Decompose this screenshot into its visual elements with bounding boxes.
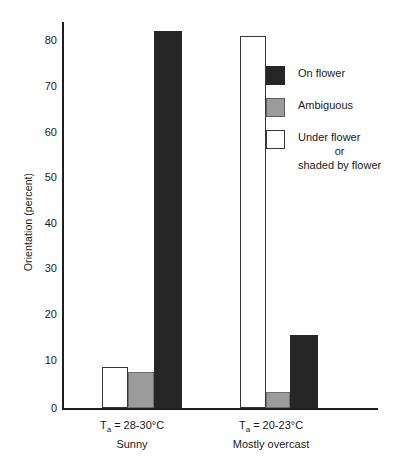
legend-item-on-flower: On flower (266, 66, 401, 85)
legend-swatch-ambiguous (266, 98, 285, 117)
y-tick-80: 80 (45, 35, 57, 46)
y-tick-40: 40 (45, 217, 57, 228)
x-group-label-1: Ta = 28-30°C Sunny (62, 418, 202, 452)
legend-swatch-under-flower (266, 130, 285, 149)
legend-under-flower-line-1: Under flower (298, 130, 381, 144)
bar-g2-ambiguous (266, 392, 290, 408)
legend-under-flower-line-3: shaded by flower (298, 158, 381, 172)
legend-under-flower-line-2: or (298, 144, 381, 158)
legend-label-on-flower: On flower (298, 66, 345, 80)
x-group-2-t: T (239, 419, 246, 431)
y-tick-30: 30 (45, 263, 57, 274)
legend-label-ambiguous: Ambiguous (298, 98, 353, 112)
y-axis-line (62, 22, 64, 410)
bar-g2-under-flower (240, 36, 266, 408)
bar-chart-figure: Orientation (percent) 80 70 60 50 40 30 … (0, 0, 401, 472)
y-tick-10: 10 (45, 354, 57, 365)
x-group-1-rest: = 28-30°C (111, 419, 164, 431)
bar-g1-ambiguous (128, 372, 154, 408)
y-tick-0: 0 (51, 402, 57, 413)
bar-g2-on-flower (290, 335, 318, 408)
y-tick-20: 20 (45, 309, 57, 320)
y-axis-title: Orientation (percent) (22, 142, 34, 302)
bar-g1-on-flower (154, 31, 182, 408)
y-tick-70: 70 (45, 81, 57, 92)
x-group-2-rest: = 20-23°C (250, 419, 303, 431)
legend-item-ambiguous: Ambiguous (266, 98, 401, 117)
legend-label-under-flower: Under flower or shaded by flower (298, 130, 381, 172)
x-group-label-2: Ta = 20-23°C Mostly overcast (196, 418, 346, 452)
y-tick-60: 60 (45, 126, 57, 137)
y-tick-50: 50 (45, 172, 57, 183)
x-axis-line (62, 408, 378, 410)
legend-item-under-flower: Under flower or shaded by flower (266, 130, 401, 172)
legend-on-flower-line-1: On flower (298, 66, 345, 80)
legend-ambiguous-line-1: Ambiguous (298, 98, 353, 112)
chart-legend: On flower Ambiguous Under flower or shad… (266, 66, 401, 185)
x-group-2-line2: Mostly overcast (196, 437, 346, 452)
x-group-1-line2: Sunny (62, 437, 202, 452)
bar-g1-under-flower (102, 367, 128, 408)
legend-swatch-on-flower (266, 66, 285, 85)
x-group-1-t: T (100, 419, 107, 431)
